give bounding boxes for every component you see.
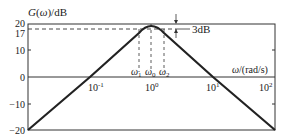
x-tick-label-10: 101	[206, 81, 220, 93]
y-tick-label-neg10: −10	[9, 99, 25, 110]
x-axis-label: ω/(rad/s)	[232, 64, 268, 76]
3db-label: 3dB	[192, 23, 210, 35]
arrow-up-icon	[174, 29, 178, 33]
y-tick-label-neg20: −20	[9, 125, 25, 136]
y-axis-label: G(ω)/dB	[28, 6, 67, 19]
x-tick-label-100: 102	[259, 81, 273, 93]
arrow-down-icon	[174, 20, 178, 24]
bode-plot: G(ω)/dB 20 17 10 0 −10 −20 10-1 100 101 …	[0, 0, 283, 139]
x-tick-label-0.1: 10-1	[88, 81, 104, 93]
y-tick-label-10: 10	[15, 45, 25, 56]
x-tick-label-1: 100	[145, 81, 159, 93]
y-tick-label-17: 17	[15, 28, 25, 39]
y-tick-label-0: 0	[20, 72, 25, 83]
